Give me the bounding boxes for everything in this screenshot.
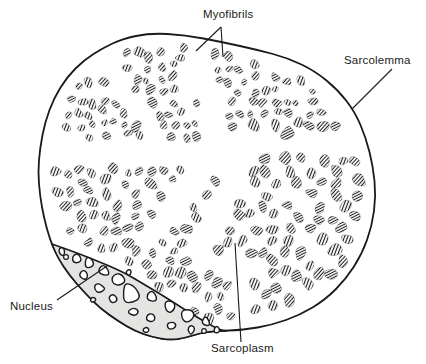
label-myofibrils: Myofibrils bbox=[203, 8, 254, 21]
myofibril-blob bbox=[64, 170, 72, 178]
myofibril-blob bbox=[284, 293, 294, 307]
nucleus-vesicle bbox=[73, 254, 81, 262]
nucleus-vesicle bbox=[80, 271, 88, 280]
myofibril-blob bbox=[122, 181, 129, 189]
nucleus-vesicle bbox=[214, 327, 219, 333]
label-sarcolemma: Sarcolemma bbox=[344, 54, 411, 67]
myofibril-blob bbox=[226, 113, 234, 119]
nucleus-vesicle bbox=[91, 297, 96, 302]
myofibril-blob bbox=[297, 76, 305, 86]
myofibril-blob bbox=[274, 109, 282, 115]
label-nucleus: Nucleus bbox=[10, 300, 53, 313]
label-sarcoplasm: Sarcoplasm bbox=[211, 342, 274, 355]
nucleus-vesicle bbox=[147, 314, 155, 322]
myofibril-blob bbox=[225, 227, 234, 235]
nucleus-vesicle bbox=[188, 326, 194, 334]
nucleus-vesicle bbox=[167, 322, 175, 329]
nucleus-vesicle bbox=[129, 308, 138, 315]
nucleus-vesicle bbox=[112, 274, 125, 285]
myofibril-blob bbox=[120, 108, 127, 118]
nucleus-vesicle-small bbox=[202, 329, 207, 334]
myofibril-blob bbox=[170, 61, 177, 67]
myofibril-blob bbox=[144, 52, 152, 64]
myofibril-blob bbox=[291, 176, 301, 188]
muscle-fiber-cross-section-figure: Myofibrils Sarcolemma Nucleus Sarcoplasm bbox=[0, 0, 426, 364]
myofibril-blob bbox=[324, 269, 337, 279]
myofibril-blob bbox=[234, 199, 246, 208]
nucleus-vesicle bbox=[109, 295, 117, 303]
nucleus-vesicle-small bbox=[64, 255, 69, 260]
cell-body bbox=[39, 34, 376, 340]
nucleus-vesicle bbox=[126, 270, 131, 275]
nucleus-vesicle bbox=[182, 310, 194, 322]
nucleus-vesicle bbox=[143, 328, 149, 333]
myofibril-blob bbox=[147, 271, 157, 279]
myofibril-blob bbox=[180, 283, 188, 292]
myofibril-blob bbox=[180, 224, 193, 233]
nucleus-vesicle bbox=[59, 248, 65, 256]
sarcolemma-pointer bbox=[352, 69, 392, 109]
nucleus-vesicle bbox=[165, 301, 175, 312]
myofibril-blob bbox=[143, 78, 148, 84]
